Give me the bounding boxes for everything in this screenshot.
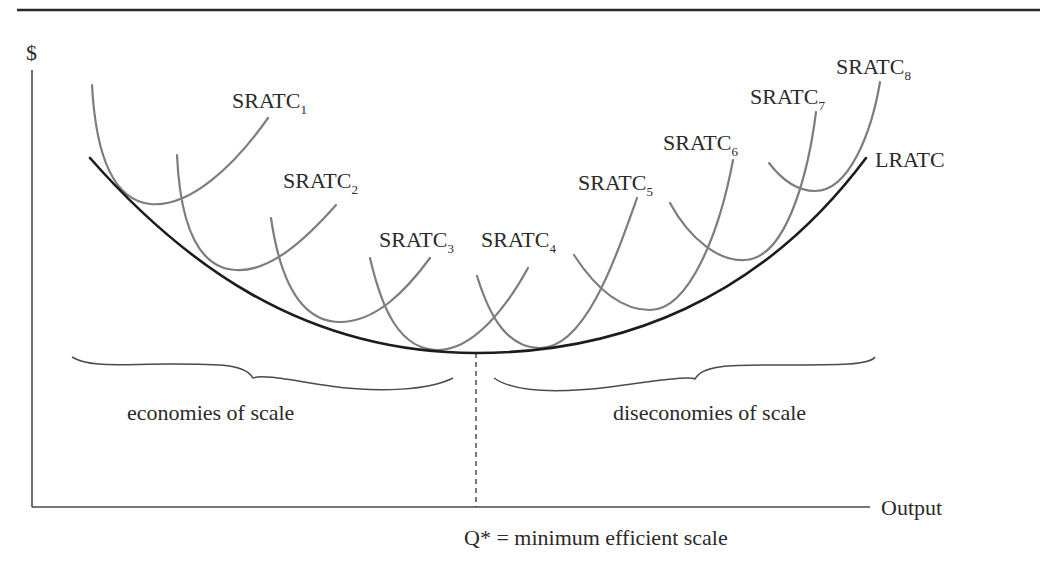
- diseconomies-brace: [494, 357, 875, 391]
- sratc-1-label: SRATC1: [232, 88, 307, 117]
- q-star-label: Q* = minimum efficient scale: [464, 525, 728, 550]
- sratc-6-label: SRATC6: [663, 130, 738, 159]
- sratc-8-label: SRATC8: [836, 54, 911, 83]
- economies-of-scale-label: economies of scale: [127, 400, 294, 425]
- sratc-3-label: SRATC3: [379, 227, 454, 256]
- sratc-2-label: SRATC2: [283, 168, 358, 197]
- sratc-5-curve: [477, 198, 637, 348]
- sratc-4-label: SRATC4: [481, 227, 556, 256]
- lratc-figure: $ Output Q* = minimum efficient scale SR…: [0, 0, 1045, 579]
- curve-labels: SRATC1 SRATC2 SRATC3 SRATC4 SRATC5 SRATC…: [232, 54, 945, 256]
- lratc-label: LRATC: [875, 147, 945, 172]
- x-axis-label: Output: [881, 495, 942, 520]
- economies-brace: [72, 357, 453, 390]
- y-axis-label: $: [26, 40, 37, 65]
- short-run-curves: [92, 82, 880, 350]
- sratc-5-label: SRATC5: [578, 170, 653, 199]
- diseconomies-of-scale-label: diseconomies of scale: [613, 400, 806, 425]
- axes: $ Output: [26, 40, 942, 520]
- sratc-4-curve: [370, 258, 528, 350]
- sratc-7-label: SRATC7: [750, 84, 825, 113]
